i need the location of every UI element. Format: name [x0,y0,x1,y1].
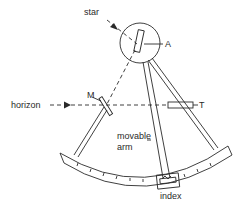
label-horizon: horizon [11,101,41,110]
frame-arms [74,58,218,157]
sextant-diagram: star A M horizon T movable arm index [0,0,240,204]
label-m: M [87,91,95,100]
label-t: T [199,101,205,110]
star-ray [107,20,137,44]
label-arm: arm [117,143,133,152]
star-arrow-icon [110,23,118,30]
arc-scale [60,146,232,186]
movable-arm [143,62,170,178]
label-a: A [165,40,171,49]
label-movable: movable [117,132,151,141]
label-index: index [160,192,182,201]
index-mirror-circle [120,23,160,63]
horizon-arrow-icon [64,102,71,109]
index-mirror [134,30,144,53]
label-star: star [84,8,99,17]
reflected-ray [107,50,135,104]
